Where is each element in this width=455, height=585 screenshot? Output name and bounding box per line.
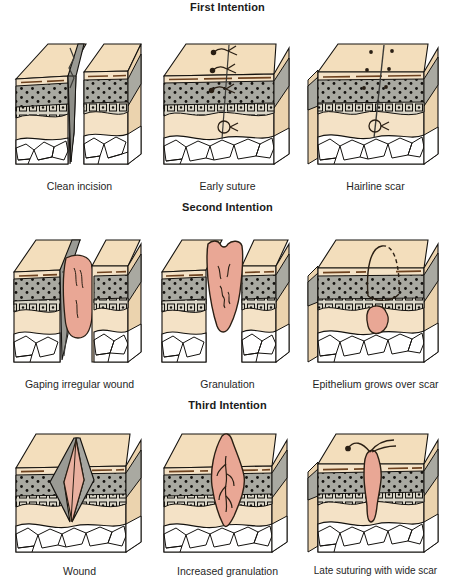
figure-clean-incision: [8, 14, 151, 179]
panel-wound: Wound: [8, 412, 151, 577]
granulation-tissue: [207, 241, 243, 332]
caption-granulation: Granulation: [156, 378, 299, 390]
panel-clean-incision: Clean incision: [8, 14, 151, 192]
wound-tissue: [63, 255, 94, 338]
figure-early-suture: [156, 14, 299, 179]
panel-late-suturing-with-wide-scar: Late suturing with wide scar: [304, 412, 447, 577]
panel-early-suture: Early suture: [156, 14, 299, 192]
section-third-intention: Third Intention: [0, 398, 455, 585]
caption-wound: Wound: [8, 565, 151, 577]
caption-early-suture: Early suture: [156, 180, 299, 192]
figure-gaping-irregular-wound: [8, 214, 151, 377]
panel-epithelium-grows-over-scar: Epithelium grows over scar: [304, 214, 447, 390]
illustration-sheet: First Intention: [0, 0, 455, 585]
panel-granulation: Granulation: [156, 214, 299, 390]
figure-increased-granulation: [156, 412, 299, 564]
panel-hairline-scar: Hairline scar: [304, 14, 447, 192]
figure-hairline-scar: [304, 14, 447, 179]
section-heading-second: Second Intention: [0, 200, 455, 214]
panel-row-first: Clean incision: [0, 14, 455, 192]
caption-late-suturing-with-wide-scar: Late suturing with wide scar: [304, 565, 447, 576]
caption-hairline-scar: Hairline scar: [304, 180, 447, 192]
buried-scar-tissue: [367, 306, 388, 334]
figure-wound: [8, 412, 151, 564]
figure-granulation: [156, 214, 299, 377]
panel-gaping-irregular-wound: Gaping irregular wound: [8, 214, 151, 390]
panel-increased-granulation: Increased granulation: [156, 412, 299, 577]
figure-epithelium-grows-over-scar: [304, 214, 447, 377]
panel-row-second: Gaping irregular wound: [0, 214, 455, 390]
section-heading-third: Third Intention: [0, 398, 455, 412]
caption-clean-incision: Clean incision: [8, 180, 151, 192]
section-first-intention: First Intention: [0, 0, 455, 200]
panel-row-third: Wound: [0, 412, 455, 577]
section-second-intention: Second Intention: [0, 200, 455, 398]
caption-gaping-irregular-wound: Gaping irregular wound: [8, 378, 151, 390]
section-heading-first: First Intention: [0, 0, 455, 14]
caption-increased-granulation: Increased granulation: [156, 565, 299, 577]
caption-epithelium-grows-over-scar: Epithelium grows over scar: [304, 378, 447, 390]
figure-late-suturing-with-wide-scar: [304, 412, 447, 564]
